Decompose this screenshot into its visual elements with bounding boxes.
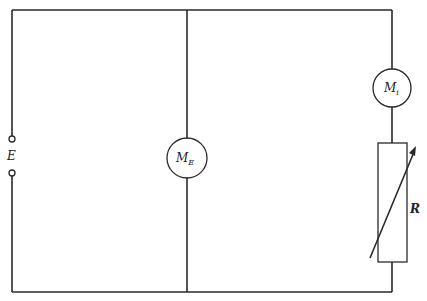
ammeter-subscript: i: [396, 88, 399, 97]
ammeter: Mi: [373, 69, 411, 107]
circuit-diagram: E ME Mi R: [0, 0, 427, 301]
variable-resistor: R: [370, 143, 420, 262]
resistor-label: R: [409, 202, 420, 216]
voltmeter-subscript: E: [187, 158, 194, 167]
emf-label: E: [6, 149, 16, 163]
terminal-bottom-icon: [9, 170, 15, 176]
voltmeter: ME: [167, 138, 207, 178]
emf-source: E: [6, 136, 16, 176]
voltmeter-label: M: [175, 151, 189, 165]
ammeter-label: M: [383, 81, 397, 95]
arrow-head-icon: [409, 146, 416, 156]
terminal-top-icon: [9, 136, 15, 142]
